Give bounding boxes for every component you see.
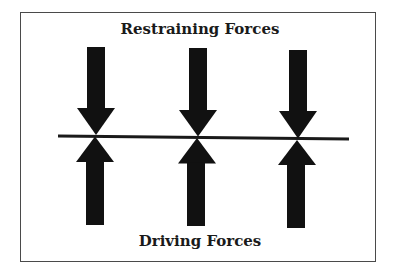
restraining-arrow-2 [179,48,217,137]
restraining-arrow-3 [279,50,317,139]
driving-arrow-3 [278,140,316,228]
driving-arrow-2 [178,138,216,226]
driving-forces-label: Driving Forces [0,232,400,250]
equilibrium-line [58,135,349,141]
driving-arrow-1 [76,137,114,226]
restraining-arrow-1 [77,47,115,135]
